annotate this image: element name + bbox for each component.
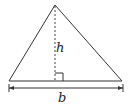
base-label: b <box>58 90 66 105</box>
right-angle-marker <box>55 73 63 81</box>
arrow-left-icon <box>9 86 14 90</box>
triangle-diagram: h b <box>0 0 129 105</box>
height-label: h <box>56 40 64 55</box>
arrow-right-icon <box>118 86 123 90</box>
triangle <box>9 5 122 81</box>
